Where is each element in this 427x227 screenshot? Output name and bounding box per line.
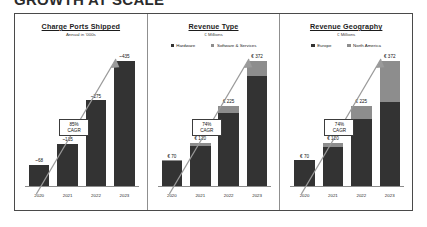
x-axis-labels: 2020 2021 2022 2023 (158, 193, 272, 198)
x-axis-line (290, 186, 404, 187)
panel-charge-ports-shipped: Charge Ports Shipped Annual in '000s 85%… (15, 14, 147, 210)
cagr-label: CAGR (67, 128, 80, 134)
bar-value-label: € 225 (356, 99, 368, 104)
legend-label: Hardware (176, 43, 195, 48)
cagr-label: CAGR (200, 128, 213, 134)
bar-slot[interactable]: ~68 (29, 50, 49, 186)
bar[interactable] (29, 165, 49, 186)
bar-segment-primary (57, 144, 77, 186)
bar[interactable] (114, 61, 134, 186)
legend-swatch-icon (347, 44, 350, 47)
x-tick-label: 2023 (247, 193, 267, 198)
bar-segment-secondary (351, 106, 371, 119)
bar-value-label: € 372 (251, 54, 263, 59)
x-tick-label: 2020 (162, 193, 182, 198)
cagr-callout: 74% CAGR (192, 119, 222, 136)
panel-legend: Europe North America (280, 43, 412, 48)
x-tick-label: 2021 (190, 193, 210, 198)
legend-item-europe: Europe (311, 43, 331, 48)
bar[interactable] (294, 160, 314, 186)
x-tick-label: 2022 (351, 193, 371, 198)
bar-segment-primary (247, 76, 267, 186)
bar-segment-secondary (218, 106, 238, 113)
bar-segment-primary (86, 100, 106, 186)
legend-label: Europe (317, 43, 331, 48)
x-tick-label: 2022 (86, 193, 106, 198)
slide-headline: GROWTH AT SCALE (14, 0, 164, 8)
legend-swatch-icon (171, 44, 174, 47)
bar[interactable] (57, 144, 77, 186)
plot-area: 85% CAGR ~68 ~135 (25, 50, 139, 200)
bar[interactable] (380, 61, 400, 186)
slide-canvas: GROWTH AT SCALE Charge Ports Shipped Ann… (0, 0, 427, 227)
bar-slot[interactable]: € 372 (247, 50, 267, 186)
bar-value-label: € 120 (195, 136, 207, 141)
x-tick-label: 2021 (57, 193, 77, 198)
bar-value-label: € 70 (300, 154, 309, 159)
bar-group: € 70 € 120 € 225 (290, 50, 404, 186)
legend-swatch-icon (211, 44, 214, 47)
plot-area: 74% CAGR € 70 € 120 (290, 50, 404, 200)
bar-slot[interactable]: ~435 (114, 50, 134, 186)
bar[interactable] (323, 142, 343, 186)
charts-frame: Charge Ports Shipped Annual in '000s 85%… (14, 13, 413, 211)
bar-segment-secondary (380, 61, 400, 102)
bar-segment-primary (162, 161, 182, 186)
x-tick-label: 2020 (294, 193, 314, 198)
panel-revenue-geography: Revenue Geography € Millions Europe Nort… (279, 14, 412, 210)
bar-segment-primary (294, 160, 314, 186)
bar-slot[interactable]: € 70 (162, 50, 182, 186)
bar-value-label: € 225 (223, 99, 235, 104)
x-tick-label: 2020 (29, 193, 49, 198)
cagr-callout: 74% CAGR (324, 119, 354, 136)
bar-segment-primary (29, 165, 49, 186)
bar[interactable] (162, 160, 182, 186)
panel-title: Revenue Type (148, 22, 280, 31)
bar-value-label: € 120 (327, 136, 339, 141)
bar-segment-primary (190, 146, 210, 186)
bar-value-label: € 70 (167, 154, 176, 159)
x-axis-labels: 2020 2021 2022 2023 (25, 193, 139, 198)
bar[interactable] (351, 106, 371, 186)
panel-revenue-type: Revenue Type € Millions Hardware Softwar… (147, 14, 280, 210)
x-tick-label: 2021 (323, 193, 343, 198)
bar-segment-primary (380, 102, 400, 186)
bar-slot[interactable]: € 70 (294, 50, 314, 186)
bar-segment-secondary (247, 61, 267, 76)
bar-segment-primary (114, 61, 134, 186)
bar-segment-primary (323, 147, 343, 186)
legend-swatch-icon (311, 44, 314, 47)
x-axis-line (25, 186, 139, 187)
bar-slot[interactable]: € 225 (351, 50, 371, 186)
panel-subtitle: € Millions (280, 32, 412, 37)
legend-item-north-america: North America (347, 43, 381, 48)
plot-area: 74% CAGR € 70 € 120 (158, 50, 272, 200)
x-axis-labels: 2020 2021 2022 2023 (290, 193, 404, 198)
bar-group: € 70 € 120 € 225 (158, 50, 272, 186)
bar-slot[interactable]: € 120 (323, 50, 343, 186)
bar-slot[interactable]: € 120 (190, 50, 210, 186)
cagr-callout: 85% CAGR (59, 119, 89, 136)
bar-group: ~68 ~135 ~275 (25, 50, 139, 186)
bar[interactable] (86, 100, 106, 186)
panel-title: Charge Ports Shipped (15, 22, 147, 31)
bar[interactable] (190, 142, 210, 186)
bar-slot[interactable]: € 372 (380, 50, 400, 186)
panel-subtitle: Annual in '000s (15, 32, 147, 37)
bar-value-label: ~275 (91, 94, 101, 99)
bar-value-label: ~435 (119, 54, 129, 59)
bar-value-label: € 372 (384, 54, 396, 59)
bar-slot[interactable]: ~135 (57, 50, 77, 186)
x-tick-label: 2023 (380, 193, 400, 198)
legend-item-software-services: Software & Services (211, 43, 256, 48)
legend-label: North America (353, 43, 381, 48)
x-axis-line (158, 186, 272, 187)
bar-slot[interactable]: € 225 (218, 50, 238, 186)
x-tick-label: 2023 (114, 193, 134, 198)
bar[interactable] (247, 61, 267, 186)
bar[interactable] (218, 106, 238, 186)
x-tick-label: 2022 (218, 193, 238, 198)
bar-value-label: ~135 (62, 137, 72, 142)
bar-slot[interactable]: ~275 (86, 50, 106, 186)
panel-title: Revenue Geography (280, 22, 412, 31)
